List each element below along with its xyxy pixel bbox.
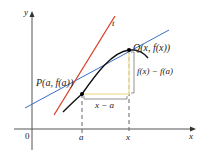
point-Q <box>127 48 131 52</box>
rise-label: f(x) − f(a) <box>137 67 173 76</box>
diagram-canvas <box>0 0 209 157</box>
x-axis-label: x <box>189 132 193 141</box>
tick-a-label: a <box>79 133 84 142</box>
y-axis-arrow-icon <box>30 11 35 17</box>
point-P-label: P(a, f(a)) <box>36 78 73 88</box>
run-label: x − a <box>95 101 114 110</box>
y-axis-label: y <box>24 8 28 17</box>
origin-label: 0 <box>25 132 30 141</box>
bracket-run <box>84 96 127 99</box>
point-Q-label: Q(x, f(x)) <box>133 43 170 53</box>
tangent-label: t <box>112 19 115 28</box>
tick-x-label: x <box>126 133 130 142</box>
bracket-rise <box>131 52 134 93</box>
point-P <box>80 92 84 96</box>
